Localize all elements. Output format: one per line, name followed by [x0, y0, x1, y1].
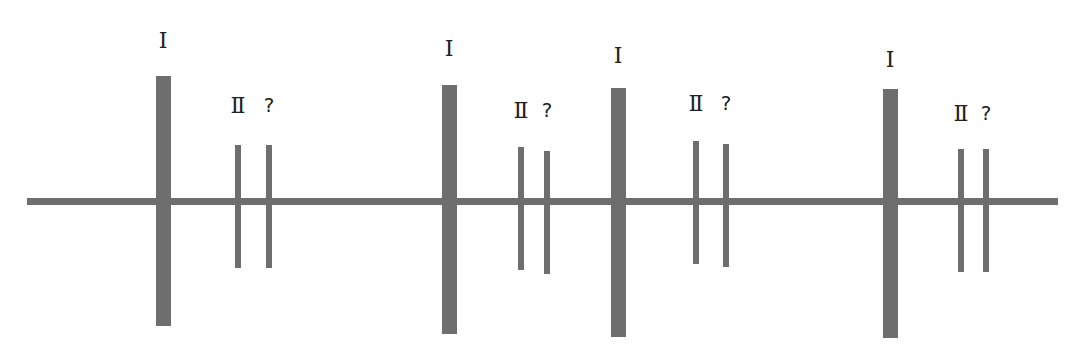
thick-bar-group-1: [156, 76, 171, 326]
thin-bar-group-1: [266, 145, 272, 268]
thick-bar-group-3: [611, 88, 626, 337]
thin-bar-group-1: [235, 145, 241, 268]
mark-label-group-1: I: [159, 30, 168, 52]
mark-label-group-2: Ⅱ: [514, 100, 529, 122]
thick-bar-group-4: [883, 89, 898, 338]
horizontal-axis-line: [27, 198, 1058, 205]
thick-bar-group-2: [442, 85, 457, 334]
diagram: IⅡ?IⅡ?IⅡ?IⅡ?: [0, 0, 1085, 357]
thin-bar-group-3: [693, 141, 699, 264]
mark-label-group-1: Ⅱ: [231, 95, 246, 117]
mark-label-group-2: ?: [542, 100, 553, 120]
mark-label-group-4: Ⅱ: [954, 103, 969, 125]
mark-label-group-2: I: [445, 38, 454, 60]
mark-label-group-3: Ⅱ: [689, 93, 704, 115]
mark-label-group-3: ?: [721, 93, 732, 113]
mark-label-group-1: ?: [264, 95, 275, 115]
mark-label-group-3: I: [614, 45, 623, 67]
thin-bar-group-3: [723, 144, 729, 267]
thin-bar-group-4: [958, 149, 964, 272]
thin-bar-group-4: [983, 149, 989, 272]
thin-bar-group-2: [544, 151, 550, 274]
mark-label-group-4: ?: [981, 103, 992, 123]
mark-label-group-4: I: [886, 49, 895, 71]
thin-bar-group-2: [518, 147, 524, 270]
